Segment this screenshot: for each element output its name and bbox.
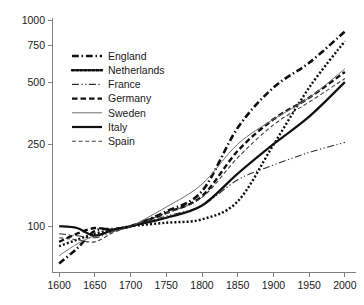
legend-label: England — [108, 50, 147, 62]
y-tick-label: 250 — [27, 138, 45, 150]
x-tick-label: 1850 — [226, 279, 250, 291]
x-tick-label: 1750 — [155, 279, 179, 291]
x-tick-label: 1650 — [83, 279, 107, 291]
axes: 1002505007501000160016501700175018001850… — [22, 14, 357, 291]
legend-entry-spain[interactable]: Spain — [72, 135, 135, 147]
x-tick-label: 1800 — [190, 279, 214, 291]
series-line-netherlands — [59, 41, 345, 246]
legend-entry-germany[interactable]: Germany — [72, 92, 152, 104]
series-lines — [59, 31, 345, 263]
legend-label: France — [108, 78, 141, 90]
legend-entry-sweden[interactable]: Sweden — [72, 107, 146, 119]
legend-label: Sweden — [108, 107, 146, 119]
legend-entry-france[interactable]: France — [72, 78, 141, 90]
x-tick-label: 1950 — [297, 279, 321, 291]
chart-container: 1002505007501000160016501700175018001850… — [0, 0, 364, 305]
legend-label: Italy — [108, 121, 128, 133]
line-chart: 1002505007501000160016501700175018001850… — [0, 0, 364, 305]
y-tick-label: 750 — [27, 39, 45, 51]
x-tick-label: 1700 — [119, 279, 143, 291]
y-tick-label: 500 — [27, 76, 45, 88]
chart-legend: EnglandNetherlandsFranceGermanySwedenIta… — [72, 50, 165, 147]
x-tick-label: 1900 — [262, 279, 286, 291]
legend-entry-italy[interactable]: Italy — [72, 121, 128, 133]
x-tick-label: 2000 — [333, 279, 357, 291]
x-tick-label: 1600 — [47, 279, 71, 291]
legend-label: Netherlands — [108, 64, 165, 76]
legend-label: Germany — [108, 92, 152, 104]
legend-entry-netherlands[interactable]: Netherlands — [72, 64, 165, 76]
series-line-italy — [59, 82, 345, 236]
y-tick-label: 1000 — [22, 14, 46, 26]
y-tick-label: 100 — [27, 220, 45, 232]
legend-entry-england[interactable]: England — [72, 50, 147, 62]
legend-label: Spain — [108, 135, 135, 147]
series-line-france — [59, 142, 345, 237]
